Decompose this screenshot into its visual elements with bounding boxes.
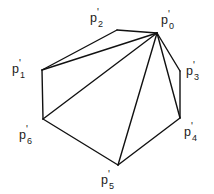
vertex-label-prime: ' [191, 121, 193, 132]
vertex-label-base: p [19, 128, 26, 142]
vertex-label-subscript: 1 [20, 70, 25, 80]
vertex-label-base: p [186, 64, 193, 78]
edge-p3-p0 [157, 33, 180, 71]
vertex-label-subscript: 6 [27, 136, 32, 146]
polygon-diagram [0, 0, 214, 194]
vertex-label-p5: p'5 [101, 171, 115, 189]
vertex-label-subscript: 5 [109, 181, 114, 191]
vertex-label-p0: p'0 [161, 11, 175, 29]
diagonal-p0-p5 [118, 33, 157, 165]
diagonal-p0-p6 [43, 33, 157, 119]
edge-p0-p2 [117, 30, 157, 33]
polygon-boundary-edges [42, 30, 180, 165]
vertex-label-prime: ' [97, 7, 99, 18]
vertex-label-prime: ' [26, 124, 28, 135]
vertex-label-p3: p'3 [186, 62, 200, 80]
vertex-label-subscript: 4 [192, 133, 197, 143]
vertex-label-base: p [12, 62, 19, 76]
vertex-label-p6: p'6 [19, 126, 33, 144]
vertex-label-prime: ' [193, 60, 195, 71]
diagonal-p0-p4 [157, 33, 180, 118]
vertex-label-prime: ' [168, 9, 170, 20]
vertex-label-prime: ' [108, 169, 110, 180]
vertex-label-p1: p'1 [12, 60, 26, 78]
edge-p6-p5 [43, 119, 118, 165]
vertex-label-base: p [90, 11, 97, 25]
vertex-label-base: p [161, 13, 168, 27]
vertex-label-subscript: 0 [169, 21, 174, 31]
vertex-label-p2: p'2 [90, 9, 104, 27]
vertex-label-subscript: 2 [98, 19, 103, 29]
vertex-label-subscript: 3 [194, 72, 199, 82]
vertex-label-prime: ' [19, 58, 21, 69]
vertex-label-base: p [184, 125, 191, 139]
vertex-label-base: p [101, 173, 108, 187]
edge-p5-p4 [118, 118, 180, 165]
edge-p1-p6 [42, 70, 43, 119]
vertex-label-p4: p'4 [184, 123, 198, 141]
polygon-figure: p'0p'1p'2p'3p'4p'5p'6 [0, 0, 214, 194]
polygon-diagonal-edges [42, 33, 180, 165]
